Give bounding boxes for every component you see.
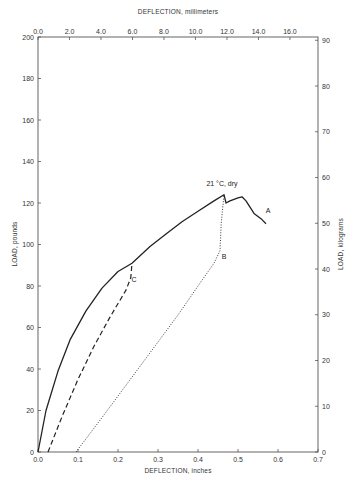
x-tick-label: 0.1 <box>73 456 83 463</box>
y-tick-label: 60 <box>26 324 34 331</box>
y2-axis-label: LOAD, kilograms <box>337 217 345 270</box>
x-tick-label: 0.0 <box>33 456 43 463</box>
y2-tick-label: 10 <box>322 403 330 410</box>
x2-tick-label: 6.0 <box>128 28 138 35</box>
load-deflection-chart: 0.00.10.20.30.40.50.60.70204060801001201… <box>0 0 354 483</box>
annotation-label: 21 °C, dry <box>206 180 238 188</box>
plot-border <box>38 37 318 452</box>
x-tick-label: 0.2 <box>113 456 123 463</box>
y2-tick-label: 0 <box>322 449 326 456</box>
y-axis-label: LOAD, pounds <box>11 221 19 267</box>
y2-tick-label: 30 <box>322 311 330 318</box>
annotation-label: A <box>266 207 271 214</box>
x2-tick-label: 14.0 <box>252 28 266 35</box>
x2-tick-label: 12.0 <box>220 28 234 35</box>
y-tick-label: 0 <box>30 449 34 456</box>
x2-tick-label: 0.0 <box>33 28 43 35</box>
y-tick-label: 100 <box>22 241 34 248</box>
series-c-line <box>48 263 132 452</box>
y-tick-label: 160 <box>22 117 34 124</box>
x2-tick-label: 16.0 <box>283 28 297 35</box>
annotations: 21 °C, dryABC <box>131 180 270 282</box>
series-b-line <box>76 195 224 452</box>
y2-tick-label: 40 <box>322 266 330 273</box>
y2-tick-label: 70 <box>322 128 330 135</box>
axis-labels: DEFLECTION, inches DEFLECTION, millimete… <box>11 8 345 474</box>
x-tick-label: 0.3 <box>153 456 163 463</box>
y-tick-label: 80 <box>26 283 34 290</box>
y2-tick-label: 80 <box>322 83 330 90</box>
annotation-label: B <box>222 253 227 260</box>
x2-tick-label: 10.0 <box>189 28 203 35</box>
x2-tick-label: 8.0 <box>159 28 169 35</box>
y-tick-label: 180 <box>22 75 34 82</box>
y2-tick-label: 50 <box>322 220 330 227</box>
annotation-label: C <box>131 276 136 283</box>
data-series <box>38 195 266 452</box>
x2-tick-label: 2.0 <box>65 28 75 35</box>
x-tick-label: 0.6 <box>273 456 283 463</box>
x2-axis-label: DEFLECTION, millimeters <box>138 8 219 15</box>
y2-tick-label: 60 <box>322 174 330 181</box>
series-a-line <box>38 195 266 452</box>
y2-tick-label: 90 <box>322 37 330 44</box>
plot-frame <box>38 37 318 452</box>
y-tick-label: 120 <box>22 200 34 207</box>
x-tick-label: 0.7 <box>313 456 323 463</box>
y-tick-label: 40 <box>26 366 34 373</box>
x2-tick-label: 4.0 <box>96 28 106 35</box>
x-axis-label: DEFLECTION, inches <box>144 467 212 474</box>
y-tick-label: 20 <box>26 407 34 414</box>
y-tick-label: 140 <box>22 158 34 165</box>
axis-ticks: 0.00.10.20.30.40.50.60.70204060801001201… <box>22 28 330 463</box>
x-tick-label: 0.4 <box>193 456 203 463</box>
x-tick-label: 0.5 <box>233 456 243 463</box>
y2-tick-label: 20 <box>322 357 330 364</box>
